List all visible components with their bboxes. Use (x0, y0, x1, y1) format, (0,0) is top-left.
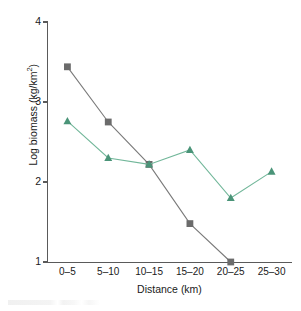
green-series-marker-0 (63, 117, 71, 124)
cropped-caption-fragment (8, 300, 100, 305)
gray-series-marker-0 (64, 63, 71, 70)
gray-series-marker-1 (105, 119, 112, 126)
green-series-line (67, 121, 271, 198)
gray-series-marker-3 (187, 220, 194, 227)
data-series-layer (0, 0, 301, 311)
figure-container: 1234 0–55–1010–1515–2020–2525–30 Log bio… (0, 0, 301, 311)
green-series-marker-5 (268, 167, 276, 174)
chart-plot-area: 1234 0–55–1010–1515–2020–2525–30 Log bio… (0, 0, 301, 311)
green-series-marker-3 (186, 146, 194, 153)
gray-series-marker-4 (227, 259, 234, 266)
